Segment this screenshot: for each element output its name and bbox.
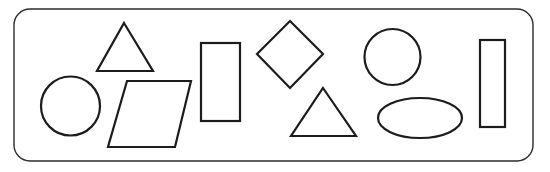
triangle-lower-right-shape bbox=[291, 88, 356, 136]
circle-small-left-shape bbox=[41, 77, 100, 136]
ellipse-shape bbox=[378, 98, 462, 138]
triangle-upper-left-shape bbox=[97, 23, 153, 71]
rectangle-tall-right-shape bbox=[480, 40, 505, 127]
circle-upper-right-shape bbox=[365, 29, 421, 85]
parallelogram-shape bbox=[108, 81, 191, 147]
shapes-diagram bbox=[0, 0, 550, 172]
rectangle-tall-left-shape bbox=[201, 43, 240, 121]
shapes-figure-canvas bbox=[0, 0, 550, 172]
diamond-shape bbox=[257, 21, 323, 88]
